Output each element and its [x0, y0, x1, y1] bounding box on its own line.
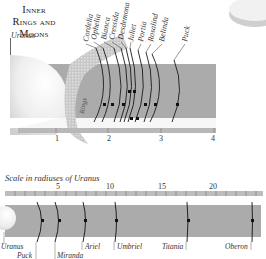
label-titania: Titania — [162, 242, 183, 251]
outer-scale-ruler — [5, 191, 263, 196]
label-puck: Puck — [17, 251, 32, 259]
outer-tick-15: 15 — [158, 182, 166, 191]
inner-scale-ruler — [18, 128, 216, 133]
label-miranda: Miranda — [57, 251, 83, 259]
inner-tick-3: 3 — [159, 134, 163, 143]
planet-disk-top-right — [229, 0, 266, 27]
inner-tick-4: 4 — [211, 134, 215, 143]
outer-tick-20: 20 — [209, 182, 217, 191]
inner-moon-labels: Cordelia Ophelia Bianca Cressida Desdemo… — [81, 2, 192, 44]
outer-tick-10: 10 — [106, 182, 114, 191]
outer-tick-5: 5 — [56, 182, 60, 191]
inner-tick-2: 2 — [107, 134, 111, 143]
svg-text:Puck: Puck — [180, 25, 192, 44]
scale-caption: Scale in radiuses of Uranus — [5, 173, 99, 183]
label-uranus: Uranus — [1, 242, 24, 251]
inner-tick-1: 1 — [55, 134, 59, 143]
label-umbriel: Umbriel — [117, 242, 142, 251]
label-oberon: Oberon — [225, 242, 248, 251]
rings-diagram: Rings Cordeli — [0, 0, 266, 259]
svg-text:Belinda: Belinda — [157, 16, 170, 42]
label-ariel: Ariel — [85, 242, 100, 251]
